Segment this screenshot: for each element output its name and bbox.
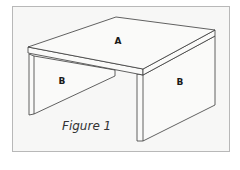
table-diagram: A B B Figure 1 — [0, 0, 240, 170]
label-top: A — [115, 36, 122, 46]
figure-caption: Figure 1 — [62, 119, 111, 133]
label-right-side: B — [177, 77, 184, 87]
label-left-side: B — [59, 76, 66, 86]
